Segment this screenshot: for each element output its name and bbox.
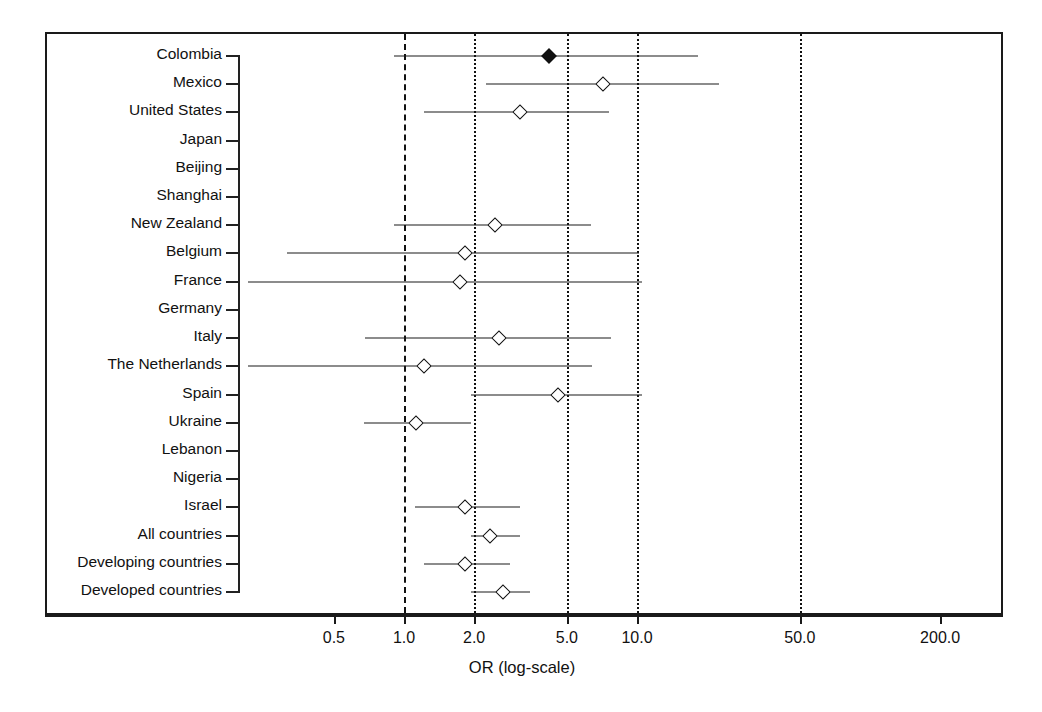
y-label-israel: Israel — [0, 498, 222, 514]
confidence-interval-line — [365, 338, 611, 339]
odds-ratio-marker — [513, 105, 529, 121]
x-axis-title: OR (log-scale) — [469, 658, 575, 677]
forest-plot-figure: ColombiaMexicoUnited StatesJapanBeijingS… — [0, 0, 1042, 712]
y-axis-tick — [226, 365, 240, 367]
y-label-the-netherlands: The Netherlands — [0, 357, 222, 373]
x-axis-line — [45, 615, 1003, 617]
x-axis-tick — [404, 615, 406, 624]
odds-ratio-marker — [458, 556, 474, 572]
y-axis-tick — [226, 252, 240, 254]
y-axis-tick — [226, 535, 240, 537]
reference-line-2 — [474, 34, 476, 613]
odds-ratio-marker — [458, 246, 474, 262]
y-axis-tick — [226, 224, 240, 226]
y-label-france: France — [0, 272, 222, 288]
y-axis-tick — [226, 309, 240, 311]
y-label-united-states: United States — [0, 103, 222, 119]
y-axis-tick — [226, 140, 240, 142]
y-label-ukraine: Ukraine — [0, 413, 222, 429]
odds-ratio-marker — [452, 274, 468, 290]
odds-ratio-marker — [483, 528, 499, 544]
x-axis-tick — [567, 615, 569, 624]
x-tick-label: 5.0 — [556, 629, 578, 647]
x-tick-label: 0.5 — [323, 629, 345, 647]
y-axis-tick — [226, 450, 240, 452]
odds-ratio-marker — [495, 584, 511, 600]
x-tick-label: 1.0 — [393, 629, 415, 647]
y-label-all-countries: All countries — [0, 526, 222, 542]
y-label-italy: Italy — [0, 328, 222, 344]
y-label-developed-countries: Developed countries — [0, 582, 222, 598]
y-label-nigeria: Nigeria — [0, 469, 222, 485]
odds-ratio-marker — [458, 500, 474, 516]
odds-ratio-marker — [417, 359, 433, 375]
y-axis-tick — [226, 111, 240, 113]
y-axis-tick — [226, 55, 240, 57]
y-label-japan: Japan — [0, 131, 222, 147]
y-axis-tick — [226, 337, 240, 339]
x-tick-label: 10.0 — [621, 629, 652, 647]
odds-ratio-marker — [491, 330, 507, 346]
y-label-lebanon: Lebanon — [0, 441, 222, 457]
y-label-germany: Germany — [0, 300, 222, 316]
y-label-beijing: Beijing — [0, 159, 222, 175]
odds-ratio-marker — [550, 387, 566, 403]
y-label-new-zealand: New Zealand — [0, 216, 222, 232]
y-axis-tick — [226, 563, 240, 565]
y-label-shanghai: Shanghai — [0, 187, 222, 203]
reference-line-10 — [637, 34, 639, 613]
odds-ratio-marker — [487, 217, 503, 233]
x-tick-label: 50.0 — [784, 629, 815, 647]
y-label-colombia: Colombia — [0, 46, 222, 62]
x-tick-label: 200.0 — [920, 629, 960, 647]
y-axis-tick — [226, 168, 240, 170]
y-label-belgium: Belgium — [0, 244, 222, 260]
y-label-spain: Spain — [0, 385, 222, 401]
y-axis-tick — [226, 83, 240, 85]
reference-line-50 — [800, 34, 802, 613]
y-axis-tick — [226, 591, 240, 593]
odds-ratio-marker — [541, 48, 557, 64]
y-axis-tick — [226, 394, 240, 396]
y-label-mexico: Mexico — [0, 74, 222, 90]
x-axis-tick — [474, 615, 476, 624]
y-axis-spine — [238, 56, 240, 592]
y-axis-tick — [226, 506, 240, 508]
y-axis-tick — [226, 478, 240, 480]
y-axis-tick — [226, 281, 240, 283]
x-axis-tick — [334, 615, 336, 624]
odds-ratio-marker — [408, 415, 424, 431]
reference-line-5 — [567, 34, 569, 613]
x-tick-label: 2.0 — [463, 629, 485, 647]
y-axis-tick — [226, 422, 240, 424]
odds-ratio-marker — [595, 76, 611, 92]
y-axis-tick — [226, 196, 240, 198]
reference-line-1 — [404, 34, 406, 613]
y-label-developing-countries: Developing countries — [0, 554, 222, 570]
x-axis-tick — [800, 615, 802, 624]
confidence-interval-line — [248, 281, 642, 282]
x-axis-tick — [940, 615, 942, 624]
x-axis-tick — [637, 615, 639, 624]
